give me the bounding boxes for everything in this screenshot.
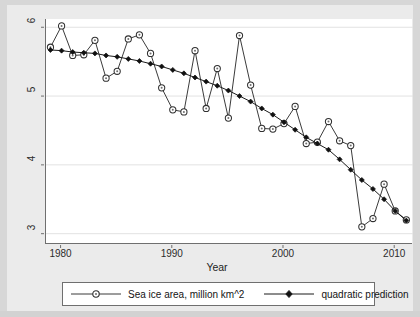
- filled-diamond-marker-icon: [262, 287, 316, 301]
- figure-canvas: 3456 1980199020002010 Year Sea ice area,…: [0, 0, 420, 317]
- data-point-center: [127, 38, 129, 40]
- data-point: [248, 99, 253, 104]
- data-point-center: [327, 121, 329, 123]
- data-point-center: [272, 128, 274, 130]
- data-point-center: [205, 107, 207, 109]
- data-point: [159, 64, 164, 69]
- legend-entry-prediction[interactable]: quadratic prediction: [262, 283, 408, 305]
- data-point-center: [61, 25, 63, 27]
- figure-bottom-strip: [0, 311, 420, 317]
- data-point-center: [216, 68, 218, 70]
- x-tick-label: 1990: [152, 248, 192, 259]
- data-point-center: [150, 52, 152, 54]
- data-point: [181, 71, 186, 76]
- legend: Sea ice area, million km^2 quadratic pre…: [62, 282, 375, 306]
- data-point: [237, 94, 242, 99]
- legend-label-observed: Sea ice area, million km^2: [128, 289, 244, 300]
- data-point: [148, 61, 153, 66]
- x-axis-title: Year: [7, 261, 420, 273]
- x-tick-label: 1980: [41, 248, 81, 259]
- data-point-center: [250, 84, 252, 86]
- legend-label-prediction: quadratic prediction: [321, 289, 408, 300]
- data-point: [259, 106, 264, 111]
- data-point-center: [350, 145, 352, 147]
- data-point-center: [138, 34, 140, 36]
- y-tick-label: 4: [26, 151, 37, 165]
- data-point-center: [372, 218, 374, 220]
- data-point: [170, 67, 175, 72]
- gridlines: [46, 27, 413, 233]
- data-point-center: [383, 183, 385, 185]
- y-tick-label: 6: [26, 14, 37, 28]
- y-tick-label: 3: [26, 220, 37, 234]
- data-point-center: [305, 143, 307, 145]
- legend-entry-observed[interactable]: Sea ice area, million km^2: [69, 283, 244, 305]
- data-point-center: [261, 127, 263, 129]
- plot-area: [45, 19, 412, 244]
- data-point: [126, 56, 131, 61]
- data-point: [226, 88, 231, 93]
- data-point: [104, 53, 109, 58]
- data-point-center: [361, 226, 363, 228]
- figure-inner-frame: 3456 1980199020002010 Year Sea ice area,…: [7, 5, 413, 311]
- x-tick-label: 2010: [374, 248, 414, 259]
- data-point-center: [161, 87, 163, 89]
- data-point: [59, 48, 64, 53]
- data-point-center: [94, 39, 96, 41]
- data-point-center: [172, 109, 174, 111]
- data-point-center: [194, 50, 196, 52]
- data-point-center: [183, 111, 185, 113]
- data-point: [204, 79, 209, 84]
- data-point: [137, 58, 142, 63]
- open-circle-marker-icon: [69, 287, 123, 301]
- y-tick-label: 5: [26, 83, 37, 97]
- data-point: [215, 83, 220, 88]
- data-point-center: [227, 117, 229, 119]
- data-point-center: [339, 140, 341, 142]
- data-point-center: [294, 105, 296, 107]
- data-point: [193, 75, 198, 80]
- x-tick-label: 2000: [263, 248, 303, 259]
- data-point-center: [105, 77, 107, 79]
- data-point: [92, 51, 97, 56]
- series-layer: [47, 23, 409, 230]
- data-point-center: [239, 35, 241, 37]
- data-point: [115, 54, 120, 59]
- data-point-center: [116, 70, 118, 72]
- plot-svg: [46, 19, 413, 244]
